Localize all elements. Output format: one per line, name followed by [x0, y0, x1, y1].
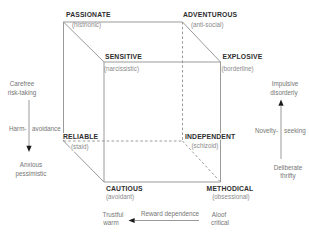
reward-axis-right-label-line2: critical: [211, 219, 229, 226]
harm-axis-arrow-down-icon: [26, 146, 31, 152]
harm-axis-bottom-label-line2: pessimistic: [16, 170, 47, 178]
label-sensitive: SENSITIVE: [105, 53, 142, 60]
sublabel-obsessional: (obsessional): [212, 193, 249, 201]
sublabel-staid: (staid): [71, 143, 89, 151]
sublabel-schizoid: (schizoid): [192, 142, 219, 150]
reward-axis-right-label-line1: Aloof: [212, 211, 227, 218]
personality-cube-figure: PASSIONATE (histrionic) ADVENTUROUS (ant…: [0, 0, 309, 238]
sublabel-borderline: (borderline): [222, 65, 254, 73]
novelty-axis-name-left: Novelty-: [255, 127, 278, 135]
label-adventurous: ADVENTUROUS: [183, 11, 237, 18]
harm-axis-top-label-line1: Carefree: [10, 80, 35, 87]
reward-axis-arrow-left-icon: [129, 218, 135, 223]
novelty-axis-top-label-line1: Impulsive: [272, 80, 299, 88]
label-explosive: EXPLOSIVE: [223, 53, 263, 60]
axis-novelty-seeking: Impulsive disorderly Novelty- seeking De…: [255, 80, 306, 180]
sublabel-narcissistic: (narcissistic): [104, 65, 139, 73]
reward-axis-name: Reward dependence: [141, 210, 200, 218]
edge-adventurous-explosive: [183, 22, 221, 62]
sublabel-anti-social: (anti-social): [191, 21, 224, 29]
axis-harm-avoidance: Carefree risk-taking Harm- avoidance Anx…: [8, 80, 62, 179]
novelty-axis-bottom-label-line1: Deliberate: [274, 164, 303, 171]
label-reliable: RELIABLE: [63, 133, 99, 140]
harm-axis-top-label-line2: risk-taking: [8, 89, 37, 97]
sublabel-avoidant: (avoidant): [106, 193, 134, 201]
label-passionate: PASSIONATE: [66, 11, 111, 18]
label-cautious: CAUTIOUS: [106, 185, 143, 192]
cube-diagram-svg: PASSIONATE (histrionic) ADVENTUROUS (ant…: [0, 0, 309, 238]
cube-corner-labels: PASSIONATE (histrionic) ADVENTUROUS (ant…: [63, 11, 263, 201]
sublabel-histrionic: (histrionic): [72, 21, 101, 29]
novelty-axis-top-label-line2: disorderly: [270, 89, 298, 97]
harm-axis-name-left: Harm-: [9, 125, 27, 132]
reward-axis-left-label-line1: Trustful: [103, 211, 124, 218]
label-independent: INDEPENDENT: [185, 133, 236, 140]
cube-edges: [64, 22, 221, 182]
axis-reward-dependence: Reward dependence Trustful warm Aloof cr…: [102, 210, 229, 226]
reward-axis-left-label-line2: warm: [102, 219, 118, 226]
edge-passionate-sensitive: [64, 22, 105, 62]
harm-axis-name-right: avoidance: [32, 125, 61, 132]
novelty-axis-arrow-up-icon: [278, 100, 283, 106]
novelty-axis-bottom-label-line2: thrifty: [280, 172, 296, 180]
harm-axis-bottom-label-line1: Anxious: [20, 161, 42, 168]
label-methodical: METHODICAL: [207, 185, 254, 192]
novelty-axis-name-right: seeking: [284, 127, 306, 135]
